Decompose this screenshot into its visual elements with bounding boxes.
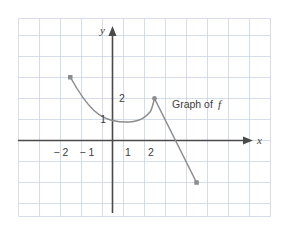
annotation-function-name: f — [218, 98, 223, 110]
graph-of-f-path — [71, 78, 197, 183]
annotation-prefix: Graph of — [172, 98, 213, 110]
function-graph-figure: − 2 − 1 1 2 1 2 x y Graph of f — [0, 0, 289, 234]
graph-of-f-annotation: Graph of f — [172, 98, 223, 110]
y-axis-arrow-icon — [109, 26, 117, 36]
x-tick-labels: − 2 − 1 1 2 — [54, 146, 155, 158]
y-tick-label-2: 2 — [119, 92, 125, 104]
graph-canvas: − 2 − 1 1 2 1 2 x y Graph of f — [0, 0, 289, 234]
x-axis-arrow-icon — [243, 137, 253, 145]
x-tick-label-minus-2: − 2 — [54, 146, 69, 158]
function-curve-group — [68, 75, 199, 185]
curve-corner-peak-marker — [152, 96, 157, 101]
y-axis-label: y — [99, 24, 105, 36]
x-axis-label: x — [256, 134, 262, 146]
x-tick-label-2: 2 — [148, 146, 154, 158]
curve-left-endpoint-marker — [68, 75, 73, 80]
y-tick-label-1: 1 — [100, 113, 106, 125]
curve-right-endpoint-marker — [194, 180, 199, 185]
x-tick-label-1: 1 — [125, 146, 131, 158]
x-tick-label-minus-1: − 1 — [80, 146, 95, 158]
x-axis — [18, 137, 253, 145]
